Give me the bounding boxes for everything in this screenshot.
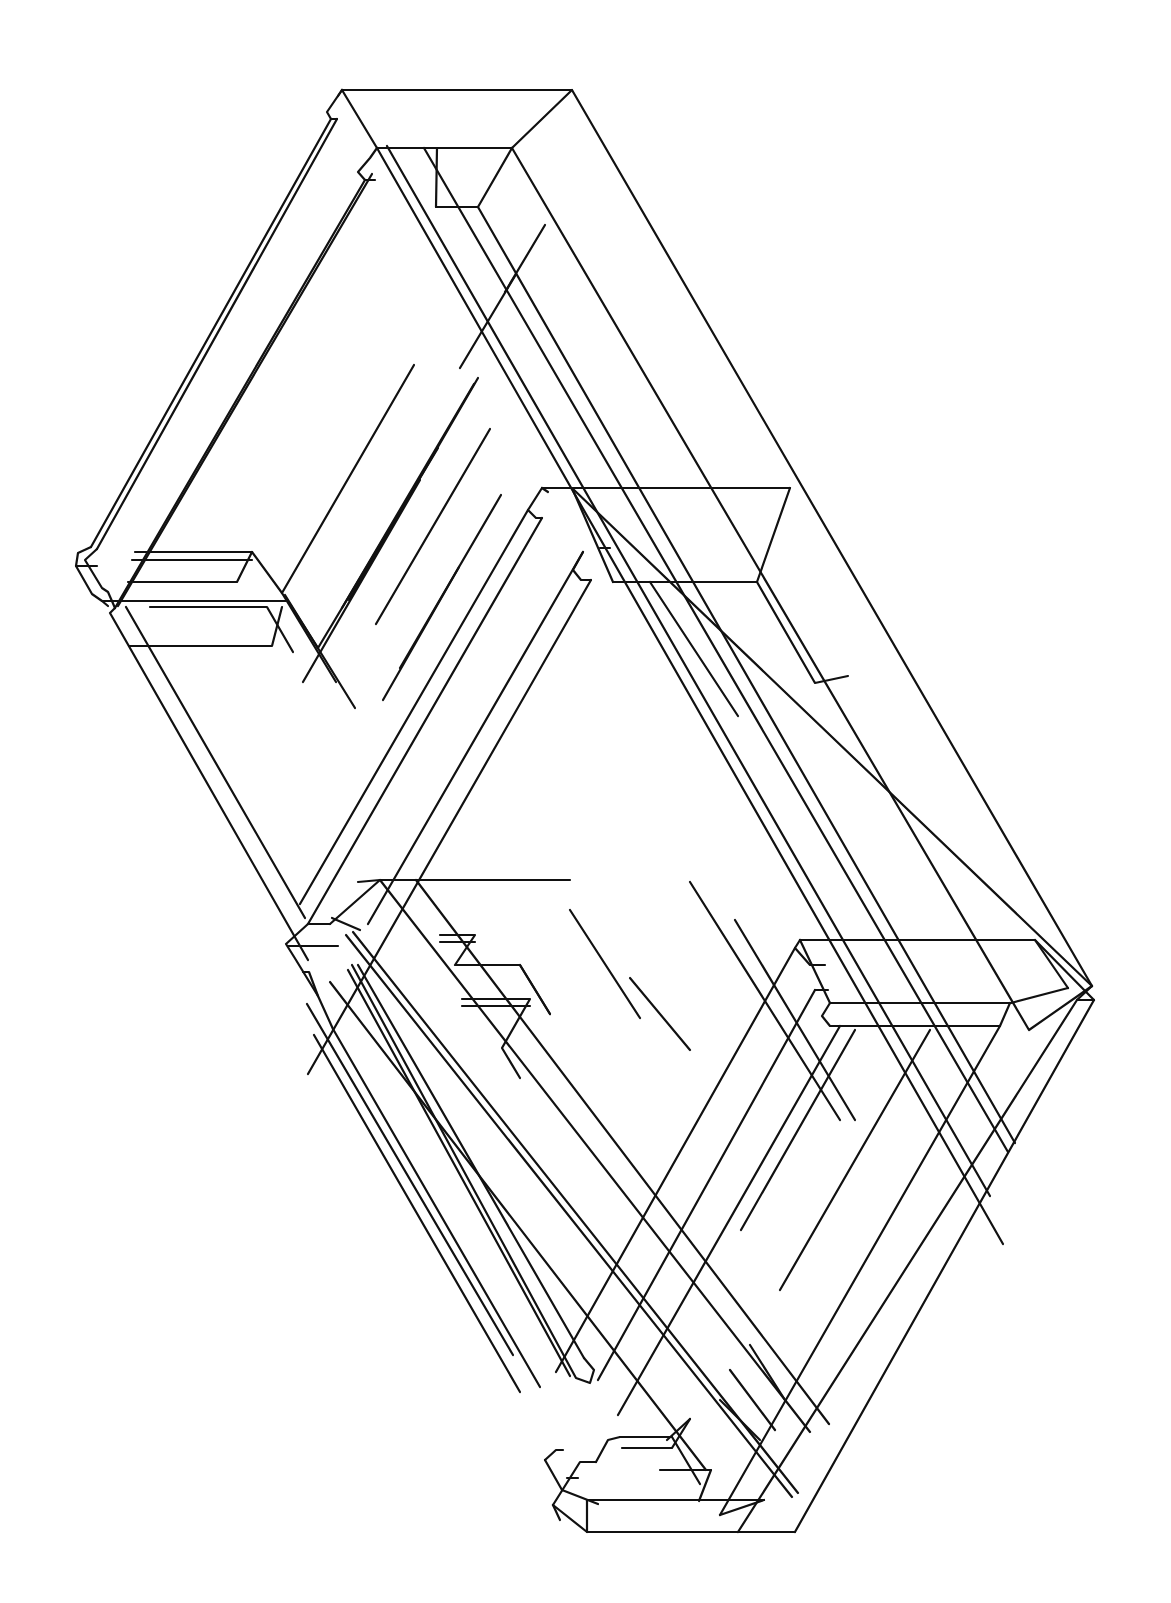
- frame-edge-line: [118, 174, 372, 606]
- frame-edge-line: [308, 580, 591, 1074]
- frame-edge-line: [308, 518, 542, 924]
- frame-edge-line: [542, 488, 613, 582]
- frame-edge-line: [800, 940, 1094, 1000]
- frame-edge-line: [738, 1000, 1077, 1532]
- frame-edge-line: [545, 1450, 563, 1460]
- frame-edge-line: [598, 990, 815, 1380]
- frame-edge-line: [512, 148, 1092, 1030]
- frame-edge-line: [387, 146, 990, 1196]
- frame-assembly-drawing: [0, 0, 1171, 1603]
- frame-edge-line: [618, 1026, 840, 1415]
- frame-edge-line: [741, 1030, 855, 1230]
- frame-edge-line: [545, 1460, 598, 1504]
- frame-edge-line: [282, 365, 414, 593]
- frame-edge-line: [126, 607, 305, 918]
- frame-edge-line: [660, 1470, 711, 1501]
- frame-edge-line: [556, 948, 795, 1372]
- frame-edge-line: [333, 1029, 540, 1387]
- frame-edge-line: [115, 180, 365, 608]
- frame-edge-line: [720, 1026, 1000, 1515]
- frame-edge-line: [352, 965, 594, 1383]
- frame-edge-line: [314, 1035, 520, 1392]
- frame-line-work: [76, 90, 1094, 1532]
- frame-edge-line: [462, 999, 530, 1078]
- frame-edge-line: [440, 935, 550, 1014]
- frame-edge-line: [570, 910, 640, 1018]
- frame-edge-line: [330, 880, 570, 924]
- frame-edge-line: [380, 880, 810, 1432]
- frame-edge-line: [342, 90, 1092, 986]
- frame-edge-line: [830, 988, 1068, 1003]
- frame-edge-line: [353, 932, 798, 1493]
- frame-edge-line: [613, 488, 790, 582]
- frame-edge-line: [596, 1437, 620, 1462]
- frame-edge-line: [358, 965, 584, 1358]
- frame-edge-line: [622, 1419, 690, 1448]
- frame-edge-line: [76, 547, 108, 606]
- frame-edge-line: [286, 924, 333, 1029]
- frame-edge-line: [342, 90, 572, 148]
- frame-edge-line: [795, 1000, 1094, 1532]
- frame-edge-line: [780, 1030, 930, 1290]
- frame-edge-line: [478, 148, 512, 207]
- frame-edge-line: [97, 119, 337, 549]
- frame-edge-line: [587, 1500, 764, 1532]
- frame-edge-line: [840, 1003, 1010, 1026]
- frame-edge-line: [757, 582, 848, 683]
- frame-edge-line: [368, 552, 583, 924]
- frame-edge-line: [822, 1003, 840, 1026]
- frame-edge-line: [91, 119, 331, 547]
- frame-edge-line: [332, 918, 360, 930]
- frame-edge-line: [348, 970, 570, 1376]
- frame-edge-line: [135, 552, 336, 682]
- frame-edge-line: [630, 978, 690, 1050]
- frame-edge-line: [800, 940, 830, 1003]
- frame-edge-line: [338, 90, 342, 96]
- frame-edge-line: [358, 148, 377, 180]
- frame-edge-line: [436, 148, 437, 207]
- frame-edge-line: [424, 148, 1008, 1152]
- frame-edge-line: [720, 1400, 760, 1440]
- frame-edge-line: [110, 608, 308, 960]
- frame-edge-line: [750, 1345, 785, 1400]
- frame-edge-line: [129, 607, 282, 646]
- frame-edge-line: [303, 480, 420, 682]
- frame-edge-line: [346, 935, 792, 1497]
- frame-edge-line: [528, 488, 542, 518]
- frame-edge-line: [542, 488, 1092, 986]
